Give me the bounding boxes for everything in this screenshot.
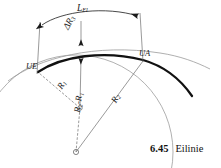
label-arc-length: LEl [77,4,88,14]
center-offset-line [76,108,80,152]
label-entry-point: UE [26,62,37,71]
radius-line-r2 [76,61,143,152]
figure-caption-text: Eilinie [175,143,203,154]
extension-line-ue [37,22,40,74]
figure-caption: 6.45Eilinie [150,143,203,154]
base-circle-r2 [0,55,173,168]
dimension-arc-lel [42,11,138,25]
figure-eilinie: LEl ΔR3 UE UA R1 R2 R₂-R₁ 6.45Eilinie [0,0,221,168]
figure-caption-number: 6.45 [150,143,168,154]
label-exit-point: UA [139,49,150,58]
